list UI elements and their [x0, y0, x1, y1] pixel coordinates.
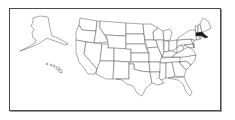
state-indiana[interactable]: [164, 41, 169, 52]
state-florida[interactable]: [168, 77, 192, 96]
state-maryland[interactable]: [184, 44, 194, 48]
state-north-dakota[interactable]: [126, 23, 144, 34]
state-iowa[interactable]: [145, 40, 158, 48]
state-ohio[interactable]: [169, 40, 177, 51]
state-michigan[interactable]: [163, 29, 172, 41]
state-kansas[interactable]: [131, 53, 149, 62]
us-map: [0, 0, 235, 120]
lower-48: [76, 18, 211, 96]
state-rhode-island[interactable]: [200, 36, 202, 39]
state-new-york[interactable]: [177, 30, 197, 40]
state-maine[interactable]: [200, 18, 211, 32]
state-montana[interactable]: [100, 21, 126, 36]
state-wyoming[interactable]: [106, 35, 126, 49]
state-alaska[interactable]: [20, 16, 68, 51]
state-arkansas[interactable]: [149, 62, 161, 72]
state-new-mexico[interactable]: [113, 61, 129, 79]
state-south-dakota[interactable]: [126, 34, 145, 44]
state-mississippi[interactable]: [159, 63, 166, 80]
state-connecticut[interactable]: [196, 36, 200, 40]
state-hawaii[interactable]: [46, 63, 62, 73]
state-colorado[interactable]: [114, 48, 131, 62]
